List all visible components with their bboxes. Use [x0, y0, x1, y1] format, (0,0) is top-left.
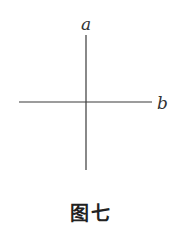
label-b: b — [157, 93, 168, 113]
label-a: a — [81, 14, 91, 34]
figure-caption: 图七 — [0, 198, 181, 225]
